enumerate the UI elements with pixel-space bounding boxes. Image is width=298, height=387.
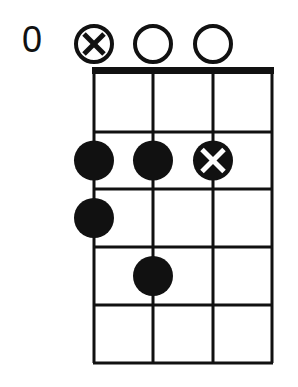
x-dot-icon xyxy=(193,141,233,181)
finger-dot xyxy=(133,256,173,296)
nut xyxy=(92,67,274,74)
chord-diagram xyxy=(0,0,298,387)
finger-dot xyxy=(74,198,114,238)
string-markers xyxy=(76,26,231,62)
circle-x-icon xyxy=(76,26,112,62)
open-circle-icon xyxy=(195,26,231,62)
fretboard-grid xyxy=(92,67,274,363)
finger-dot xyxy=(74,141,114,181)
finger-dot xyxy=(133,141,173,181)
open-circle-icon xyxy=(135,26,171,62)
